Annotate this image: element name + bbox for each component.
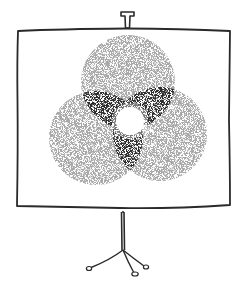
tripod-foot-right <box>143 265 148 269</box>
tripod-foot-front <box>132 272 138 276</box>
screen-drawing <box>0 0 244 293</box>
screen-handle <box>121 12 134 28</box>
tripod-stand <box>86 212 148 276</box>
tripod-foot-left <box>86 267 91 271</box>
projection-screen-illustration: Projection screen on tripod stand showin… <box>0 0 244 293</box>
